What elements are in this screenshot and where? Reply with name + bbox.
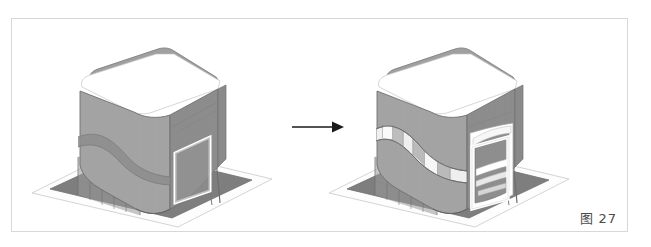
rendering-after <box>317 19 607 231</box>
building-mass-before <box>78 48 226 214</box>
rendering-before <box>20 19 310 231</box>
figure-caption: 图27 <box>580 212 617 225</box>
figure-caption-number: 27 <box>598 211 617 226</box>
figure-caption-label: 图 <box>580 211 594 226</box>
figure-page: 图27 <box>0 0 651 247</box>
building-mass-after <box>376 48 523 214</box>
figure-frame: 图27 <box>11 18 628 232</box>
rendering-before-svg <box>20 19 310 231</box>
recessed-opening-after <box>470 123 513 209</box>
rendering-after-svg <box>317 19 607 231</box>
